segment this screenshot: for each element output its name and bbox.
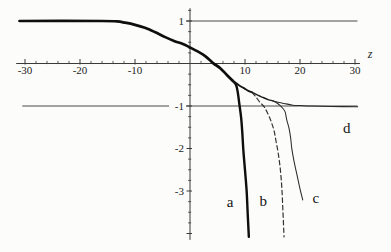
x-tick-label--10: -10 xyxy=(128,64,143,76)
curve-label-b: b xyxy=(259,193,267,209)
x-tick-label--30: -30 xyxy=(18,64,33,76)
y-tick-label--2: -2 xyxy=(175,142,184,154)
curve-b xyxy=(252,92,284,237)
figure-container: -30-20-101020301-1-2-3 abcd z xyxy=(0,0,391,252)
curve-common-cd xyxy=(252,92,273,101)
curve-common-abcd xyxy=(20,21,233,81)
x-tick-label-20: 20 xyxy=(295,64,307,76)
x-axis-variable-label: z xyxy=(367,47,373,61)
curve-label-a: a xyxy=(227,194,234,210)
y-tick-label--1: -1 xyxy=(175,100,184,112)
curve-a xyxy=(233,81,249,237)
y-tick-label-1: 1 xyxy=(179,15,185,27)
curves-group xyxy=(20,21,358,237)
axes-group xyxy=(16,8,360,240)
x-tick-label--20: -20 xyxy=(73,64,88,76)
curve-label-d: d xyxy=(343,120,351,136)
x-tick-label-30: 30 xyxy=(350,64,362,76)
x-tick-label-10: 10 xyxy=(240,64,252,76)
y-tick-label--3: -3 xyxy=(175,185,185,197)
plot-canvas: -30-20-101020301-1-2-3 abcd z xyxy=(0,0,391,252)
curve-label-c: c xyxy=(313,190,320,206)
